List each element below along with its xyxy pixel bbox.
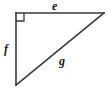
right-angle-marker-icon: [16, 13, 24, 21]
right-triangle-figure: e f g: [0, 0, 107, 97]
side-label-hypotenuse: g: [59, 55, 65, 67]
triangle-side-hypotenuse: [16, 13, 104, 85]
side-label-top: e: [52, 0, 57, 12]
triangle-svg: [0, 0, 107, 97]
triangle-outline: [16, 13, 104, 85]
side-label-left: f: [4, 43, 8, 55]
